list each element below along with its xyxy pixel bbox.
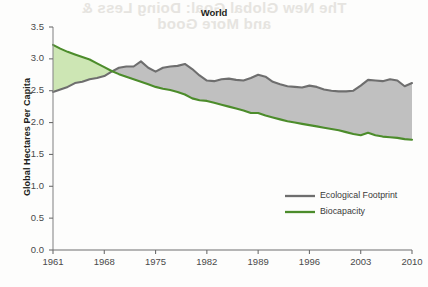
legend — [285, 196, 315, 212]
y-tick-marks — [49, 27, 53, 250]
ecological-reserve-area — [53, 45, 112, 92]
plot-area — [53, 45, 412, 140]
chart-figure: The New Global Goal: Doing Less & and Mo… — [0, 0, 428, 287]
axes — [49, 27, 412, 254]
ecological-deficit-area — [112, 61, 412, 139]
legend-label-ecological-footprint: Ecological Footprint — [320, 190, 397, 200]
x-tick-marks — [53, 250, 412, 254]
chart-canvas — [0, 0, 428, 287]
legend-label-biocapacity: Biocapacity — [320, 206, 365, 216]
